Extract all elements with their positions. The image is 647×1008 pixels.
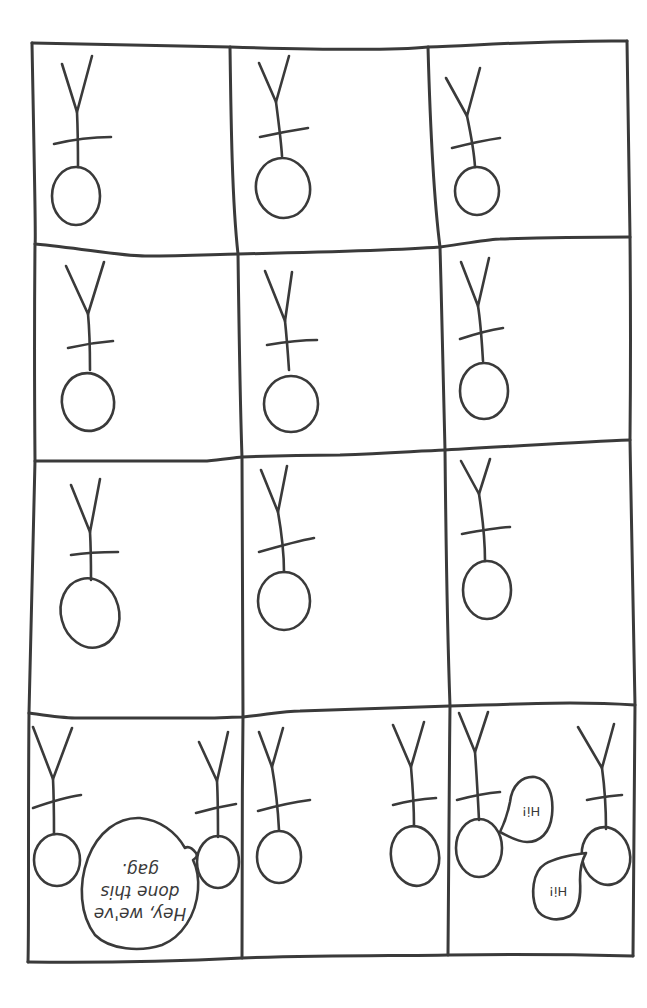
- comic-strip: Hey, we've done this gag.: [0, 0, 647, 1008]
- panel-11: [257, 722, 444, 890]
- panel-9: [461, 459, 511, 619]
- panel-1: [52, 56, 111, 225]
- column-divider-row3-b: [445, 450, 450, 706]
- figure-body: [272, 767, 279, 830]
- panel-3: [446, 68, 500, 215]
- speech-text: Hi!: [522, 804, 541, 819]
- column-divider-row1-b: [428, 47, 440, 247]
- figure-arms: [196, 804, 236, 813]
- speech-line-1: Hey, we've: [94, 904, 186, 924]
- figure-legs: [33, 727, 72, 779]
- column-divider-row1-a: [230, 47, 238, 254]
- stick-figure: [52, 56, 111, 225]
- stick-figure-right: [196, 732, 239, 888]
- speech-bubble-1: Hi!: [500, 777, 552, 842]
- speech-bubble-2: Hi!: [533, 853, 586, 919]
- row-divider-3: [29, 703, 635, 718]
- figure-legs: [71, 479, 100, 532]
- stick-figure: [446, 68, 500, 215]
- figure-head: [264, 376, 318, 432]
- figure-head: [52, 167, 100, 225]
- stick-figure: [57, 262, 120, 436]
- stick-figure: [461, 459, 511, 619]
- row-divider-1: [35, 237, 630, 256]
- stick-figure-right: [386, 722, 444, 890]
- stick-figure-left: [33, 727, 81, 886]
- figure-legs: [461, 258, 489, 306]
- column-divider-row2-a: [238, 254, 242, 457]
- frame-bottom-border: [28, 955, 633, 963]
- figure-legs: [461, 459, 490, 494]
- frame-left-border: [28, 43, 35, 962]
- figure-legs: [62, 56, 92, 112]
- figure-head: [463, 561, 511, 619]
- stick-figure: [460, 258, 508, 419]
- figure-head: [258, 572, 310, 630]
- speech-line-2: done this: [100, 882, 179, 902]
- column-divider-row3-a: [242, 457, 243, 717]
- figure-legs: [459, 712, 488, 752]
- panel-6: [460, 258, 508, 419]
- figure-body: [285, 321, 289, 370]
- figure-arms: [267, 340, 317, 345]
- speech-text: Hi!: [549, 884, 568, 899]
- column-divider-row2-b: [440, 247, 445, 450]
- figure-head: [456, 819, 502, 877]
- figure-head: [386, 822, 444, 889]
- figure-head: [197, 836, 239, 888]
- figure-body: [411, 767, 414, 826]
- figure-arms: [54, 137, 111, 144]
- panel-7: [53, 479, 127, 654]
- figure-arms: [258, 800, 310, 811]
- panel-8: [258, 466, 314, 630]
- figure-legs: [199, 732, 228, 781]
- panel-4: [57, 262, 120, 436]
- figure-legs: [259, 56, 289, 102]
- figure-head: [53, 572, 127, 655]
- figure-body: [479, 494, 485, 561]
- stick-figure-left: [257, 728, 310, 883]
- stick-figure: [258, 466, 314, 630]
- figure-head: [34, 834, 80, 886]
- figure-legs: [446, 68, 480, 116]
- figure-legs: [393, 722, 424, 767]
- figure-head: [57, 368, 120, 436]
- figure-head: [251, 154, 315, 222]
- stick-figure: [251, 56, 315, 222]
- stick-figure: [53, 479, 127, 654]
- speech-line-3: gag.: [121, 860, 158, 880]
- column-divider-row4-a: [242, 717, 243, 958]
- stick-figure: [264, 271, 318, 432]
- figure-body: [88, 314, 90, 370]
- figure-arms: [33, 795, 81, 808]
- figure-legs: [265, 271, 292, 321]
- figure-body: [475, 752, 479, 820]
- panel-10: Hey, we've done this gag.: [33, 727, 239, 949]
- stick-figure-right: [576, 724, 635, 889]
- panel-2: [251, 56, 315, 222]
- figure-body: [217, 781, 218, 837]
- figure-body: [278, 512, 284, 572]
- figure-head: [455, 167, 499, 215]
- figure-legs: [66, 262, 104, 314]
- figure-legs: [578, 724, 614, 768]
- column-divider-row4-b: [448, 706, 450, 955]
- figure-legs: [261, 466, 287, 512]
- figure-head: [460, 363, 508, 419]
- figure-body: [276, 102, 282, 156]
- frame-right-border: [627, 41, 635, 956]
- figure-arms: [462, 527, 510, 534]
- figure-arms: [260, 128, 308, 137]
- panel-12: Hi! Hi!: [456, 712, 636, 919]
- frame-top-border: [32, 41, 627, 49]
- figure-body: [53, 779, 54, 834]
- figure-arms: [71, 552, 118, 555]
- figure-body: [467, 116, 475, 167]
- row-divider-2: [35, 440, 630, 461]
- figure-arms: [259, 538, 314, 552]
- figure-arms: [452, 138, 500, 148]
- stick-figure-left: [456, 712, 502, 877]
- figure-body: [90, 532, 91, 580]
- figure-legs: [259, 728, 283, 767]
- speech-bubble: Hey, we've done this gag.: [82, 818, 198, 949]
